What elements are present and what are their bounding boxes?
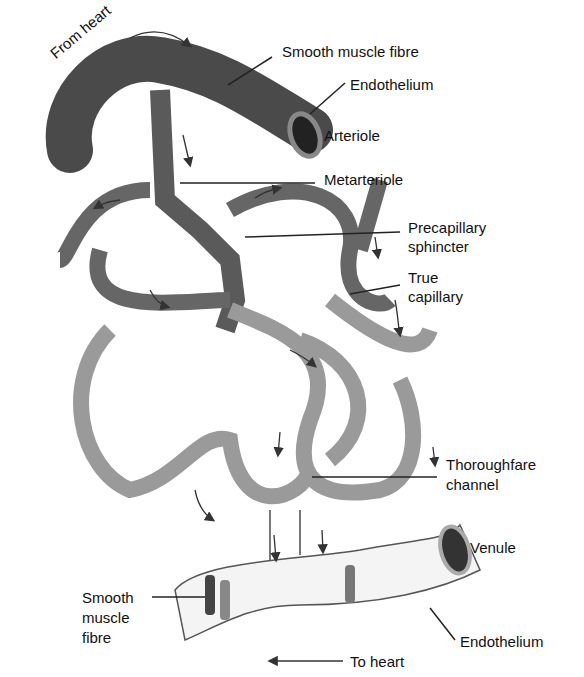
label-precapillary: Precapillary xyxy=(408,218,486,237)
label-muscle: muscle xyxy=(82,608,130,627)
label-true: True xyxy=(408,268,438,287)
label-metarteriole: Metarteriole xyxy=(324,170,403,189)
label-fibre: fibre xyxy=(82,628,111,647)
label-capillary: capillary xyxy=(408,287,463,306)
label-smooth-muscle-fibre-top: Smooth muscle fibre xyxy=(282,42,419,61)
label-endothelium-bottom: Endothelium xyxy=(460,632,543,651)
label-thoroughfare: Thoroughfare xyxy=(446,455,536,474)
label-endothelium-top: Endothelium xyxy=(350,75,433,94)
label-to-heart: To heart xyxy=(350,652,404,671)
label-sphincter: sphincter xyxy=(408,237,469,256)
label-arteriole: Arteriole xyxy=(324,126,380,145)
capillary-illustration xyxy=(0,0,584,677)
label-smooth: Smooth xyxy=(82,588,134,607)
label-channel: channel xyxy=(446,475,499,494)
label-venule: Venule xyxy=(470,538,516,557)
